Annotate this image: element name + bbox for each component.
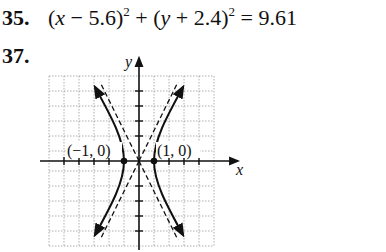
point-label-right: (1, 0): [157, 142, 192, 160]
vertex-point-left: [121, 158, 128, 165]
hyperbola-left-branch-lower: [95, 161, 124, 235]
x-axis-label: x: [235, 161, 243, 178]
hyperbola-graph: (−1, 0) (1, 0) y x: [0, 0, 386, 252]
hyperbola-right-branch-lower: [154, 161, 183, 235]
point-label-left: (−1, 0): [67, 142, 111, 160]
y-axis-label: y: [123, 53, 133, 71]
